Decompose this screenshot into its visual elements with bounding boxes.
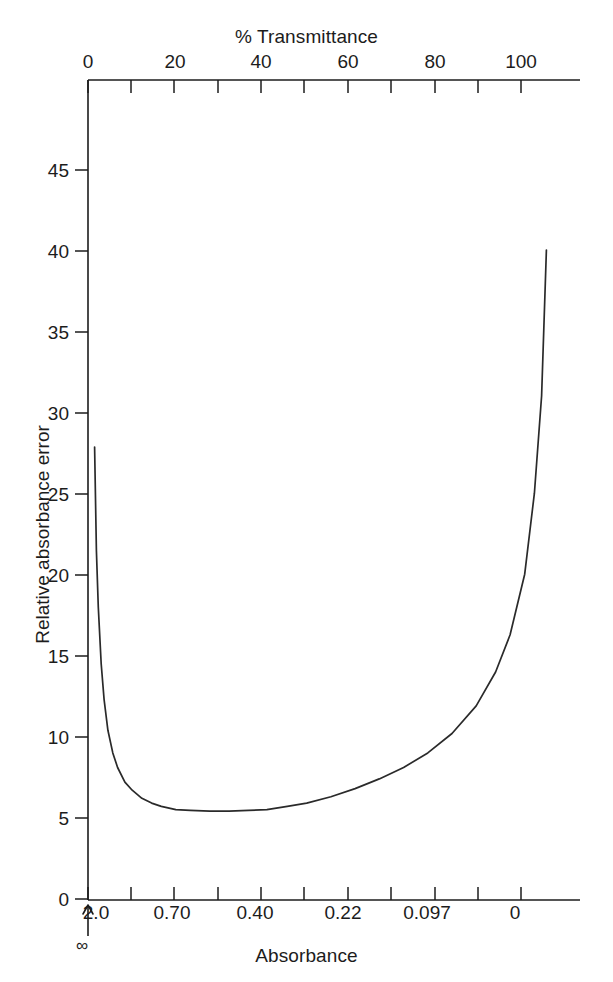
bottom-axis-ticks xyxy=(88,887,521,900)
y-tick-label-40: 40 xyxy=(23,242,69,261)
y-tick-label-30: 30 xyxy=(23,404,69,423)
y-tick-label-35: 35 xyxy=(23,323,69,342)
y-tick-label-25: 25 xyxy=(23,485,69,504)
chart-canvas xyxy=(0,0,613,982)
y-tick-label-45: 45 xyxy=(23,161,69,180)
y-tick-label-10: 10 xyxy=(23,728,69,747)
y-axis-title: Relative absorbance error xyxy=(33,385,52,685)
y-tick-label-15: 15 xyxy=(23,647,69,666)
bottom-tick-label-0-70: 0.70 xyxy=(137,903,207,922)
bottom-tick-label-2-0: 2.0 xyxy=(61,903,131,922)
top-axis-title: % Transmittance xyxy=(0,27,613,46)
bottom-tick-label-0: 0 xyxy=(480,903,550,922)
bottom-tick-label-0-40: 0.40 xyxy=(220,903,290,922)
top-tick-label-60: 60 xyxy=(318,52,378,71)
bottom-tick-label-0-097: 0.097 xyxy=(392,903,462,922)
y-tick-label-5: 5 xyxy=(23,809,69,828)
y-tick-label-20: 20 xyxy=(23,566,69,585)
top-tick-label-100: 100 xyxy=(491,52,551,71)
y-tick-label-0: 0 xyxy=(23,890,69,909)
top-tick-label-20: 20 xyxy=(145,52,205,71)
chart-figure: % Transmittance Absorbance Relative abso… xyxy=(0,0,613,982)
bottom-tick-label-0-22: 0.22 xyxy=(308,903,378,922)
error-curve xyxy=(95,250,547,811)
top-tick-label-40: 40 xyxy=(231,52,291,71)
top-tick-label-0: 0 xyxy=(58,52,118,71)
top-axis-ticks xyxy=(88,80,521,93)
top-tick-label-80: 80 xyxy=(405,52,465,71)
infinity-symbol-label: ∞ xyxy=(62,937,102,954)
y-axis-ticks xyxy=(75,170,88,899)
